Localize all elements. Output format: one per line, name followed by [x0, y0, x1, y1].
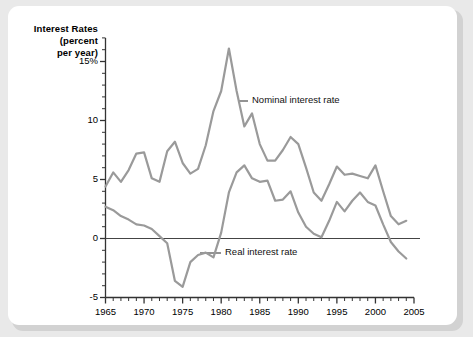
labels-layer: -5051015%1965197019751980198519901995200… — [0, 0, 473, 337]
real-rate-label: Real interest rate — [225, 246, 297, 257]
y-axis-tick-label: -5 — [50, 291, 98, 302]
nominal-rate-label: Nominal interest rate — [252, 94, 340, 105]
y-axis-tick-label: 0 — [50, 232, 98, 243]
y-axis-tick-label: 5 — [50, 173, 98, 184]
y-axis-tick-label: 10 — [50, 114, 98, 125]
screenshot-root: Interest Rates (percent per year) -50510… — [0, 0, 473, 337]
y-axis-tick-label: 15% — [50, 55, 98, 66]
x-axis-tick-label: 2005 — [389, 306, 439, 317]
